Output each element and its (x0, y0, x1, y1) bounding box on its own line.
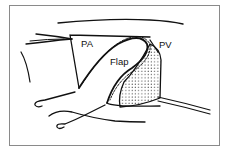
pv-region (120, 44, 162, 107)
lower-body-curve (49, 111, 145, 122)
surgical-diagram (0, 0, 230, 156)
suture-hook-upper (35, 92, 75, 107)
label-pa: PA (81, 39, 93, 49)
top-contour-line (58, 19, 183, 24)
suture-hook-lower (57, 105, 105, 129)
lower-vessel-upper (158, 97, 210, 110)
vessel-stub-upper (36, 34, 72, 39)
label-pv: PV (159, 40, 172, 50)
left-contour-line (21, 52, 30, 82)
label-flap: Flap (110, 57, 128, 67)
